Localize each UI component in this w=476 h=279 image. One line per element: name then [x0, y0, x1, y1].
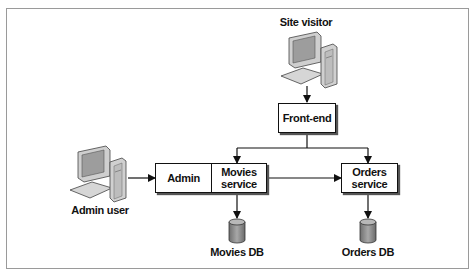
orders-service-node: Orders service [341, 163, 398, 193]
admin-user-computer-icon [70, 146, 126, 202]
movies-db-label: Movies DB [200, 246, 274, 258]
orders-db-cylinder-icon [360, 219, 376, 243]
admin-user-label: Admin user [60, 204, 140, 216]
site-visitor-label: Site visitor [266, 16, 346, 28]
movies-service-label-line1: Movies [221, 166, 257, 178]
admin-movies-node: Admin Movies service [155, 163, 267, 193]
movies-db-cylinder-icon [229, 219, 245, 243]
admin-node: Admin [156, 164, 212, 192]
connector-layer [0, 0, 476, 279]
orders-service-label-line1: Orders [352, 166, 388, 178]
orders-db-label: Orders DB [331, 246, 405, 258]
orders-service-label-line2: service [352, 178, 388, 190]
movies-service-node: Movies service [212, 164, 266, 192]
front-end-label: Front-end [283, 112, 332, 124]
admin-label: Admin [167, 172, 200, 184]
front-end-node: Front-end [278, 103, 336, 133]
movies-service-label-line2: service [221, 178, 257, 190]
site-visitor-computer-icon [281, 32, 337, 88]
